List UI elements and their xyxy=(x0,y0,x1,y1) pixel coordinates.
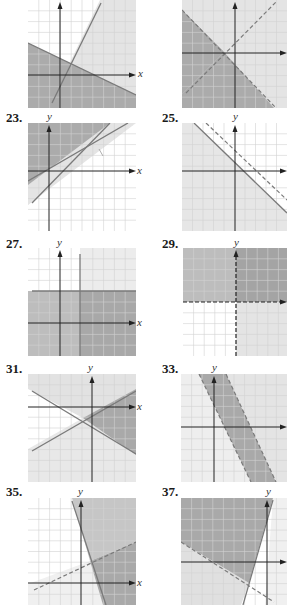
graph-23 xyxy=(28,123,136,231)
x-axis-label: x xyxy=(138,67,143,79)
graph-27 xyxy=(28,248,136,356)
graph-25 xyxy=(182,123,287,231)
graph-37 xyxy=(181,498,287,605)
graph-33 xyxy=(181,374,287,482)
y-axis-label: y xyxy=(88,361,93,373)
graph-top-right xyxy=(182,0,287,108)
y-axis-label: y xyxy=(78,485,83,497)
problem-number-33: 33. xyxy=(162,361,178,377)
problem-number-35: 35. xyxy=(6,484,22,500)
problem-number-25: 25. xyxy=(162,110,178,126)
x-axis-label: x xyxy=(137,316,142,328)
x-axis-label: x xyxy=(137,164,142,176)
graph-top-left xyxy=(28,0,136,108)
problem-number-27: 27. xyxy=(6,236,22,252)
y-axis-label: y xyxy=(234,236,239,248)
y-axis-label: y xyxy=(212,361,217,373)
problem-number-29: 29. xyxy=(162,236,178,252)
problem-number-37: 37. xyxy=(162,484,178,500)
graph-29 xyxy=(183,248,287,356)
x-axis-label: x xyxy=(137,400,142,412)
x-axis-label: x xyxy=(137,576,142,588)
graph-31 xyxy=(28,374,136,482)
problem-number-31: 31. xyxy=(6,361,22,377)
y-axis-label: y xyxy=(266,485,271,497)
problem-number-23: 23. xyxy=(6,110,22,126)
y-axis-label: y xyxy=(57,236,62,248)
graph-35 xyxy=(28,498,136,605)
y-axis-label: y xyxy=(47,110,52,122)
y-axis-label: y xyxy=(233,110,238,122)
